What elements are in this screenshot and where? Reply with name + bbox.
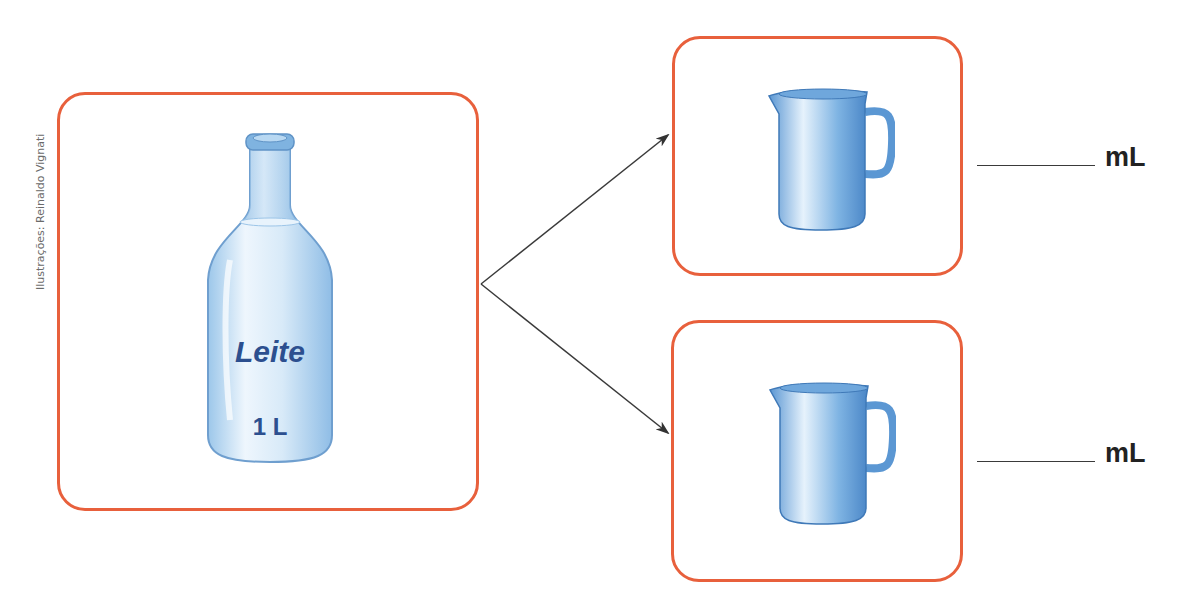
answer-field-top[interactable]: mL xyxy=(977,144,1146,171)
answer-blank-line[interactable] xyxy=(977,165,1095,166)
pitcher-box-bottom xyxy=(671,320,963,582)
unit-label: mL xyxy=(1105,144,1146,171)
pitcher-box-top xyxy=(672,36,963,276)
unit-label: mL xyxy=(1105,440,1146,467)
pitcher-icon xyxy=(766,378,896,528)
pitcher-icon xyxy=(765,84,895,234)
answer-blank-line[interactable] xyxy=(977,461,1095,462)
answer-field-bottom[interactable]: mL xyxy=(977,440,1146,467)
arrow-to-top-pitcher xyxy=(481,135,668,284)
split-arrows xyxy=(0,0,1193,604)
arrow-to-bottom-pitcher xyxy=(481,284,668,433)
